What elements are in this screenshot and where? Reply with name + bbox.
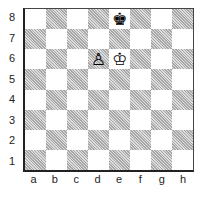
black-king-icon: ♚ bbox=[112, 11, 127, 28]
square-a5 bbox=[25, 69, 46, 89]
square-a4 bbox=[25, 90, 46, 110]
square-d5 bbox=[88, 69, 109, 89]
square-d1 bbox=[88, 150, 109, 170]
square-b6 bbox=[46, 49, 67, 69]
square-c6 bbox=[67, 49, 88, 69]
square-b2 bbox=[46, 130, 67, 150]
file-label-f: f bbox=[130, 173, 151, 185]
square-h3 bbox=[172, 110, 193, 130]
square-h1 bbox=[172, 150, 193, 170]
square-a6 bbox=[25, 49, 46, 69]
square-h7 bbox=[172, 29, 193, 49]
square-h6 bbox=[172, 49, 193, 69]
square-d6: ♙ bbox=[88, 49, 109, 69]
square-f4 bbox=[130, 90, 151, 110]
rank-label-6: 6 bbox=[6, 52, 18, 64]
square-f6 bbox=[130, 49, 151, 69]
rank-label-7: 7 bbox=[6, 32, 18, 44]
square-c4 bbox=[67, 90, 88, 110]
file-label-c: c bbox=[66, 173, 87, 185]
square-f7 bbox=[130, 29, 151, 49]
square-c2 bbox=[67, 130, 88, 150]
rank-label-3: 3 bbox=[6, 114, 18, 126]
square-g5 bbox=[151, 69, 172, 89]
square-h4 bbox=[172, 90, 193, 110]
file-label-a: a bbox=[23, 173, 44, 185]
square-d7 bbox=[88, 29, 109, 49]
square-h2 bbox=[172, 130, 193, 150]
square-g4 bbox=[151, 90, 172, 110]
square-b8 bbox=[46, 9, 67, 29]
chess-board: ♚♙♔ bbox=[23, 8, 194, 172]
square-g7 bbox=[151, 29, 172, 49]
square-e3 bbox=[109, 110, 130, 130]
rank-label-1: 1 bbox=[6, 155, 18, 167]
square-a7 bbox=[25, 29, 46, 49]
square-e7 bbox=[109, 29, 130, 49]
square-c1 bbox=[67, 150, 88, 170]
square-a8 bbox=[25, 9, 46, 29]
file-label-d: d bbox=[87, 173, 108, 185]
square-b4 bbox=[46, 90, 67, 110]
square-d4 bbox=[88, 90, 109, 110]
square-e8: ♚ bbox=[109, 9, 130, 29]
square-g3 bbox=[151, 110, 172, 130]
square-e2 bbox=[109, 130, 130, 150]
square-e1 bbox=[109, 150, 130, 170]
square-b5 bbox=[46, 69, 67, 89]
square-g8 bbox=[151, 9, 172, 29]
square-f5 bbox=[130, 69, 151, 89]
white-king-icon: ♔ bbox=[112, 51, 127, 68]
square-b7 bbox=[46, 29, 67, 49]
rank-label-4: 4 bbox=[6, 93, 18, 105]
file-label-b: b bbox=[44, 173, 65, 185]
square-c8 bbox=[67, 9, 88, 29]
square-g6 bbox=[151, 49, 172, 69]
square-f8 bbox=[130, 9, 151, 29]
square-b1 bbox=[46, 150, 67, 170]
square-h5 bbox=[172, 69, 193, 89]
rank-label-8: 8 bbox=[6, 11, 18, 23]
file-label-e: e bbox=[109, 173, 130, 185]
square-f3 bbox=[130, 110, 151, 130]
square-a3 bbox=[25, 110, 46, 130]
square-c7 bbox=[67, 29, 88, 49]
square-d2 bbox=[88, 130, 109, 150]
square-g2 bbox=[151, 130, 172, 150]
square-c5 bbox=[67, 69, 88, 89]
rank-label-2: 2 bbox=[6, 134, 18, 146]
square-a2 bbox=[25, 130, 46, 150]
square-h8 bbox=[172, 9, 193, 29]
square-g1 bbox=[151, 150, 172, 170]
file-label-h: h bbox=[173, 173, 194, 185]
square-f1 bbox=[130, 150, 151, 170]
white-pawn-icon: ♙ bbox=[91, 51, 106, 68]
square-c3 bbox=[67, 110, 88, 130]
square-f2 bbox=[130, 130, 151, 150]
square-d8 bbox=[88, 9, 109, 29]
square-e6: ♔ bbox=[109, 49, 130, 69]
square-a1 bbox=[25, 150, 46, 170]
square-b3 bbox=[46, 110, 67, 130]
square-d3 bbox=[88, 110, 109, 130]
rank-label-5: 5 bbox=[6, 73, 18, 85]
file-label-g: g bbox=[151, 173, 172, 185]
square-e5 bbox=[109, 69, 130, 89]
square-e4 bbox=[109, 90, 130, 110]
